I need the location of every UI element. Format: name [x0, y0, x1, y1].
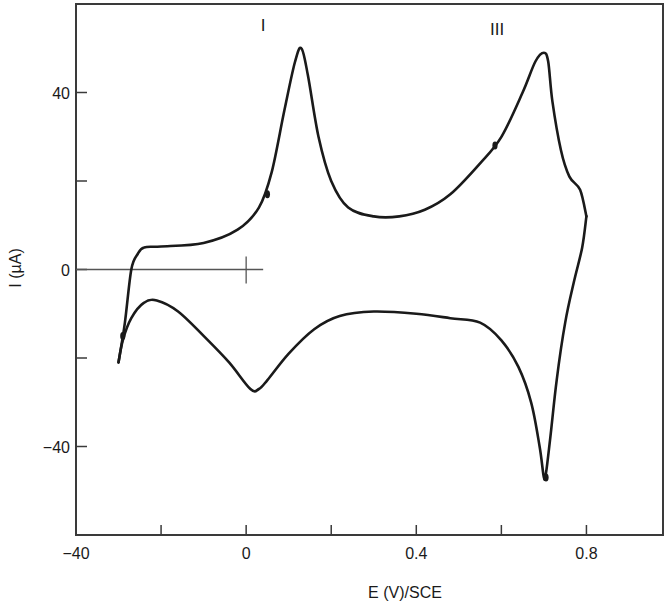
x-tick-label: 0.8: [575, 545, 597, 562]
x-tick-label: −40: [62, 545, 89, 562]
peak-labels: IIII: [261, 16, 504, 39]
direction-marker: [265, 190, 270, 198]
x-axis-title: E (V)/SCE: [368, 584, 442, 601]
cv-curves: [119, 48, 587, 482]
direction-marker: [492, 142, 497, 150]
x-tick-label: 0.4: [405, 545, 427, 562]
y-tick-label: 0: [61, 262, 70, 279]
x-tick-label: 0: [242, 545, 251, 562]
cyclic-voltammogram: −4000.40.8 400−40 IIII E (V)/SCE I (µA): [0, 0, 669, 608]
x-axis-ticks: −4000.40.8: [62, 525, 597, 562]
cathodic-sweep-line: [119, 216, 587, 479]
peak-label: I: [261, 16, 266, 35]
y-tick-label: 40: [52, 85, 70, 102]
y-tick-label: −40: [43, 439, 70, 456]
peak-label: III: [490, 20, 504, 39]
y-axis-title: I (µA): [7, 248, 24, 287]
direction-marker: [543, 473, 548, 481]
zero-reference-line: [76, 257, 263, 284]
anodic-sweep-line: [119, 48, 587, 363]
direction-marker: [120, 332, 125, 340]
